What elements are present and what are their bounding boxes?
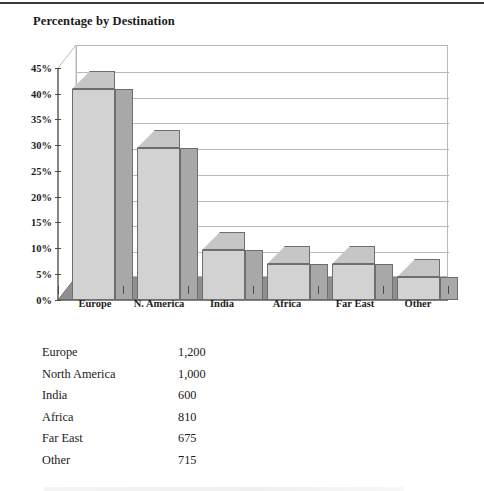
- table-cell-name: North America: [42, 367, 115, 382]
- bar-india-side: [245, 250, 263, 300]
- bar-africa[interactable]: [267, 40, 310, 300]
- y-tick-35: [55, 119, 61, 120]
- y-tick-5: [55, 274, 61, 275]
- page-title: Percentage by Destination: [33, 14, 175, 29]
- y-tick-15: [55, 222, 61, 223]
- y-axis-label-5: 5%: [18, 269, 52, 280]
- x-tick-0: [58, 286, 59, 294]
- table-cell-name: India: [42, 388, 67, 403]
- y-tick-0: [55, 300, 61, 301]
- bar-far-east-front: [332, 264, 375, 300]
- y-axis-label-35: 35%: [18, 114, 52, 125]
- y-tick-30: [55, 145, 61, 146]
- x-axis-label-europe: Europe: [78, 298, 111, 309]
- bar-n-america-top: [137, 130, 180, 148]
- bar-india-front: [202, 250, 245, 300]
- bar-far-east-side: [375, 264, 393, 300]
- bar-europe-side: [115, 89, 133, 300]
- table-cell-name: Africa: [42, 410, 73, 425]
- x-axis-label-india: India: [210, 298, 234, 309]
- bar-other-top: [397, 259, 440, 277]
- x-tick-6: [448, 286, 449, 294]
- bottom-clipped-text: [44, 487, 404, 491]
- bar-europe-top: [72, 71, 115, 89]
- y-tick-45: [55, 68, 61, 69]
- table-cell-name: Far East: [42, 431, 83, 446]
- bar-other[interactable]: [397, 40, 440, 300]
- x-axis-label-n-america: N. America: [134, 298, 185, 309]
- y-axis-label-25: 25%: [18, 166, 52, 177]
- x-tick-5: [383, 286, 384, 294]
- x-tick-2: [188, 286, 189, 294]
- bar-africa-top: [267, 246, 310, 264]
- table-row: Far East 675: [0, 431, 484, 453]
- table-cell-value: 675: [178, 431, 196, 446]
- y-tick-25: [55, 171, 61, 172]
- x-tick-4: [318, 286, 319, 294]
- y-axis-label-30: 30%: [18, 140, 52, 151]
- y-axis-label-20: 20%: [18, 192, 52, 203]
- bar-europe[interactable]: [72, 40, 115, 300]
- bar-chart: 45% 40% 35% 30% 25% 20% 15% 10% 5% 0%: [0, 40, 484, 335]
- bar-india-top: [202, 232, 245, 250]
- bar-other-front: [397, 277, 440, 300]
- bar-india[interactable]: [202, 40, 245, 300]
- table-row: Other 715: [0, 453, 484, 475]
- table-cell-name: Europe: [42, 345, 78, 360]
- bar-far-east[interactable]: [332, 40, 375, 300]
- y-axis-label-0: 0%: [18, 295, 52, 306]
- table-cell-value: 1,000: [178, 367, 206, 382]
- bar-n-america[interactable]: [137, 40, 180, 300]
- x-tick-1: [123, 286, 124, 294]
- bar-n-america-side: [180, 148, 198, 300]
- y-tick-40: [55, 94, 61, 95]
- table-row: Africa 810: [0, 410, 484, 432]
- y-axis-label-40: 40%: [18, 89, 52, 100]
- table-cell-value: 810: [178, 410, 196, 425]
- bar-n-america-front: [137, 148, 180, 300]
- y-axis-label-45: 45%: [18, 63, 52, 74]
- y-tick-20: [55, 197, 61, 198]
- table-row: India 600: [0, 388, 484, 410]
- y-axis-label-10: 10%: [18, 243, 52, 254]
- bar-other-side: [440, 277, 458, 300]
- top-divider-rule: [0, 2, 484, 4]
- y-tick-10: [55, 248, 61, 249]
- x-axis-label-far-east: Far East: [336, 298, 375, 309]
- bar-africa-side: [310, 264, 328, 300]
- table-cell-value: 600: [178, 388, 196, 403]
- table-cell-name: Other: [42, 453, 70, 468]
- bar-far-east-top: [332, 246, 375, 264]
- x-axis-label-africa: Africa: [273, 298, 302, 309]
- x-tick-3: [253, 286, 254, 294]
- y-axis-label-15: 15%: [18, 217, 52, 228]
- x-axis-label-other: Other: [405, 298, 432, 309]
- bar-africa-front: [267, 264, 310, 300]
- table-cell-value: 1,200: [178, 345, 206, 360]
- bar-europe-front: [72, 89, 115, 300]
- table-cell-value: 715: [178, 453, 196, 468]
- destination-data-table: Europe 1,200 North America 1,000 India 6…: [0, 345, 484, 474]
- table-row: Europe 1,200: [0, 345, 484, 367]
- table-row: North America 1,000: [0, 367, 484, 389]
